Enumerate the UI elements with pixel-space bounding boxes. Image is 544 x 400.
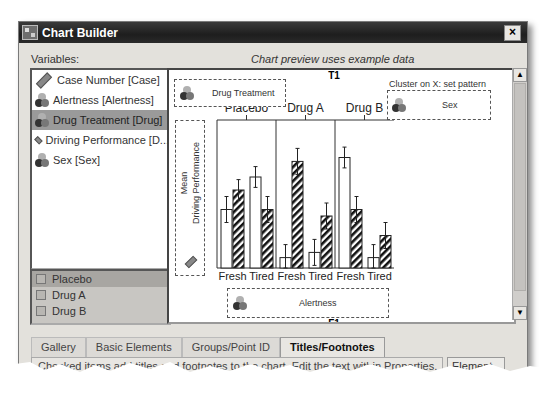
x-tick-label: Fresh	[277, 270, 305, 282]
scroll-up-button[interactable]: ▲	[513, 68, 527, 82]
cluster-dropzone-label: Sex	[442, 100, 458, 110]
x-tick-label: Tired	[308, 270, 333, 282]
preview-vertical-scrollbar[interactable]: ▲ ▼	[512, 68, 527, 320]
torn-edge-decoration	[0, 356, 544, 400]
nominal-icon	[35, 113, 49, 127]
nominal-icon	[35, 153, 49, 167]
x-axis-dropzone[interactable]: Alertness	[227, 288, 389, 318]
nominal-icon	[35, 93, 49, 107]
tab-strip: Gallery Basic Elements Groups/Point ID T…	[31, 337, 385, 357]
category-box-icon	[36, 274, 46, 284]
x-tick-label: Tired	[249, 270, 274, 282]
x-tick-label: Fresh	[336, 270, 364, 282]
category-label: Placebo	[52, 273, 92, 285]
panel-label: Drug A	[287, 101, 324, 115]
preview-note: Chart preview uses example data	[251, 53, 414, 65]
y-axis-dropzone[interactable]: Mean Driving Performance	[175, 120, 205, 276]
bar	[233, 190, 244, 268]
variable-item-case-number[interactable]: Case Number [Case]	[32, 70, 169, 90]
scroll-thumb[interactable]	[514, 83, 526, 291]
categories-list[interactable]: Placebo Drug A Drug B	[30, 269, 171, 325]
panel-label: Drug B	[346, 101, 383, 115]
variable-item-sex[interactable]: Sex [Sex]	[32, 150, 169, 170]
y-dropzone-label-line1: Mean	[178, 142, 190, 224]
scale-ruler-icon	[36, 72, 52, 88]
chart-builder-app-icon	[22, 25, 38, 40]
chart-builder-dialog: Chart Builder × Variables: Chart preview…	[18, 21, 528, 375]
variable-label: Sex [Sex]	[53, 154, 100, 166]
panel-dropzone-label: Drug Treatment	[212, 88, 275, 98]
close-button[interactable]: ×	[504, 25, 521, 41]
nominal-icon	[233, 296, 247, 310]
variable-label: Case Number [Case]	[57, 74, 160, 86]
category-item[interactable]: Drug B	[32, 303, 169, 319]
scroll-down-button[interactable]: ▼	[513, 306, 527, 320]
variable-item-alertness[interactable]: Alertness [Alertness]	[32, 90, 169, 110]
scale-ruler-icon	[185, 256, 198, 269]
variable-item-drug-treatment[interactable]: Drug Treatment [Drug]	[32, 110, 169, 130]
tab-titles-footnotes[interactable]: Titles/Footnotes	[280, 337, 385, 358]
chart-preview-canvas[interactable]: T1 PlaceboFreshTiredDrug AFreshTiredDrug…	[167, 68, 516, 324]
x-tick-label: Fresh	[218, 270, 246, 282]
cluster-dropzone[interactable]: Sex	[387, 90, 491, 120]
bar	[292, 161, 303, 268]
variables-list[interactable]: Case Number [Case] Alertness [Alertness]…	[30, 68, 171, 270]
tab-groups-point-id[interactable]: Groups/Point ID	[182, 337, 280, 358]
bar	[339, 158, 350, 269]
y-dropzone-label-line2: Driving Performance	[190, 142, 202, 224]
cluster-label: Cluster on X: set pattern	[389, 79, 486, 89]
x-tick-label: Tired	[367, 270, 392, 282]
variables-label: Variables:	[31, 53, 79, 65]
bar	[250, 177, 261, 268]
title-bar: Chart Builder ×	[19, 22, 527, 43]
tab-basic-elements[interactable]: Basic Elements	[86, 337, 182, 358]
category-item[interactable]: Drug A	[32, 287, 169, 303]
variable-label: Drug Treatment [Drug]	[53, 114, 162, 126]
category-label: Drug B	[52, 305, 86, 317]
variable-item-driving-performance[interactable]: Driving Performance [D...	[32, 130, 169, 150]
nominal-icon	[180, 86, 194, 100]
category-box-icon	[36, 290, 46, 300]
panel-dropzone[interactable]: Drug Treatment	[174, 79, 286, 107]
scale-ruler-icon	[34, 136, 42, 144]
window-title: Chart Builder	[42, 26, 118, 40]
title-marker[interactable]: T1	[328, 70, 340, 81]
category-box-icon	[36, 306, 46, 316]
x-dropzone-label: Alertness	[299, 298, 337, 308]
variable-label: Driving Performance [D...	[46, 134, 169, 146]
nominal-icon	[392, 98, 406, 112]
footnote-marker[interactable]: F1	[328, 318, 340, 322]
variable-label: Alertness [Alertness]	[53, 94, 154, 106]
category-item[interactable]: Placebo	[32, 271, 169, 287]
category-label: Drug A	[52, 289, 86, 301]
tab-gallery[interactable]: Gallery	[31, 337, 86, 358]
